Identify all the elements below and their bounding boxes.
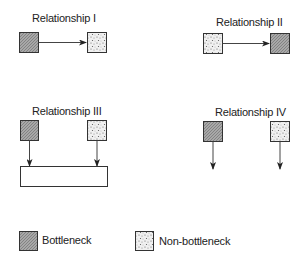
relationship-1-label: Relationship I [32, 12, 96, 24]
relationship-3-label: Relationship III [32, 105, 102, 117]
non-bottleneck-box [88, 121, 107, 141]
legend-bottleneck-swatch [20, 232, 38, 251]
relationship-4 [204, 122, 290, 170]
relationship-1 [20, 33, 107, 53]
bottleneck-box [204, 122, 223, 142]
diagram-canvas [0, 0, 307, 266]
legend-non-bottleneck-swatch [136, 232, 154, 251]
assembly-box [21, 167, 108, 187]
non-bottleneck-box [271, 122, 290, 142]
relationship-2-label: Relationship II [216, 16, 283, 28]
legend-bottleneck-label: Bottleneck [42, 234, 91, 246]
non-bottleneck-box [204, 34, 223, 54]
bottleneck-box [20, 33, 39, 53]
relationship-2 [204, 34, 290, 54]
bottleneck-box [21, 121, 39, 141]
non-bottleneck-box [88, 33, 107, 53]
legend-non-bottleneck-label: Non-bottleneck [159, 235, 230, 247]
relationship-4-label: Relationship IV [215, 106, 286, 118]
bottleneck-box [271, 34, 290, 54]
relationship-3 [21, 121, 108, 187]
